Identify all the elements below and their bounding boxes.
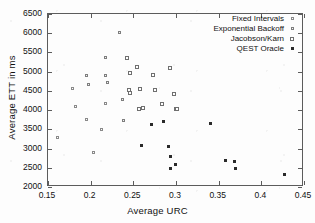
y-axis-tick (48, 129, 52, 130)
y-axis-tick (48, 52, 52, 53)
legend-item: Fixed Intervals (186, 14, 298, 24)
data-point (118, 31, 121, 34)
data-point (160, 102, 164, 106)
y-axis-tick-label: 3000 (2, 144, 42, 153)
data-point (169, 167, 172, 170)
x-axis-tick-label: 0.15 (27, 191, 67, 200)
legend-item: Jacobson/Karn (186, 34, 298, 44)
chart-legend: Fixed IntervalsExponential BackoffJacobs… (186, 14, 298, 54)
legend-marker-icon (291, 27, 294, 30)
y-axis-tick (48, 72, 52, 73)
y-axis-tick (298, 52, 302, 53)
data-point (71, 87, 74, 90)
data-point (141, 106, 145, 110)
data-point (100, 128, 103, 131)
legend-label: Exponential Backoff (213, 24, 284, 34)
y-axis-tick-label: 2500 (2, 163, 42, 172)
y-axis-tick (48, 187, 52, 188)
x-axis-tick (133, 181, 134, 185)
data-point (125, 56, 129, 60)
data-point (153, 88, 157, 92)
data-point (283, 173, 286, 176)
y-axis-tick (298, 91, 302, 92)
data-point (167, 145, 170, 148)
data-point (85, 74, 88, 77)
data-point (174, 163, 177, 166)
data-point (172, 92, 176, 96)
data-point (140, 144, 143, 147)
y-axis-tick (48, 33, 52, 34)
x-axis-tick-label: 0.25 (112, 191, 152, 200)
y-axis-tick-label: 3500 (2, 124, 42, 133)
data-point (92, 151, 95, 154)
data-point (121, 98, 124, 101)
data-point (151, 73, 155, 77)
data-point (224, 159, 227, 162)
x-axis-tick (91, 14, 92, 18)
x-axis-tick-label: 0.3 (155, 191, 195, 200)
data-point (122, 119, 125, 122)
data-point (175, 107, 179, 111)
x-axis-tick-label: 0.45 (283, 191, 315, 200)
y-axis-tick (298, 72, 302, 73)
data-point (138, 87, 142, 91)
y-axis-tick (298, 110, 302, 111)
legend-label: Fixed Intervals (232, 14, 284, 24)
y-axis-tick (48, 149, 52, 150)
data-point (85, 118, 88, 121)
y-axis-tick-label: 6500 (2, 9, 42, 18)
x-axis-tick (176, 181, 177, 185)
data-point (234, 167, 237, 170)
x-axis-title: Average URC (0, 205, 315, 216)
legend-marker-icon (291, 47, 294, 50)
data-point (128, 71, 132, 75)
x-axis-tick (261, 181, 262, 185)
y-axis-tick (48, 91, 52, 92)
data-point (104, 102, 107, 105)
data-point (56, 136, 59, 139)
x-axis-tick (304, 181, 305, 185)
data-point (233, 160, 236, 163)
legend-label: Jacobson/Karn (231, 34, 284, 44)
y-axis-tick (298, 187, 302, 188)
y-axis-tick (298, 33, 302, 34)
data-point (168, 66, 172, 70)
legend-label: QEST Oracle (237, 44, 284, 54)
data-point (128, 91, 132, 95)
x-axis-tick (48, 181, 49, 185)
y-axis-tick (48, 168, 52, 169)
y-axis-tick (298, 149, 302, 150)
legend-marker-icon (291, 17, 294, 20)
data-point (104, 56, 107, 59)
data-point (209, 122, 212, 125)
y-axis-tick-label: 4500 (2, 86, 42, 95)
x-axis-tick (91, 181, 92, 185)
x-axis-tick-label: 0.2 (70, 191, 110, 200)
y-axis-tick-label: 5500 (2, 47, 42, 56)
legend-item: Exponential Backoff (186, 24, 298, 34)
x-axis-tick-label: 0.35 (198, 191, 238, 200)
x-axis-tick (176, 14, 177, 18)
data-point (106, 81, 109, 84)
data-point (169, 155, 172, 158)
data-point (87, 83, 90, 86)
y-axis-tick-label: 2000 (2, 182, 42, 191)
y-axis-tick (298, 129, 302, 130)
x-axis-tick-label: 0.4 (240, 191, 280, 200)
y-axis-tick (298, 14, 302, 15)
x-axis-tick (304, 14, 305, 18)
x-axis-tick (133, 14, 134, 18)
legend-item: QEST Oracle (186, 44, 298, 54)
data-point (150, 123, 153, 126)
data-point (135, 65, 139, 69)
data-point (74, 105, 77, 108)
y-axis-tick-label: 6000 (2, 28, 42, 37)
y-axis-tick (298, 168, 302, 169)
scatter-chart-figure: Average ETT in ms Average URC Fixed Inte… (0, 0, 315, 223)
y-axis-tick (48, 110, 52, 111)
data-point (162, 120, 165, 123)
legend-marker-icon (290, 37, 294, 41)
data-point (104, 74, 107, 77)
x-axis-tick (219, 181, 220, 185)
x-axis-tick (48, 14, 49, 18)
